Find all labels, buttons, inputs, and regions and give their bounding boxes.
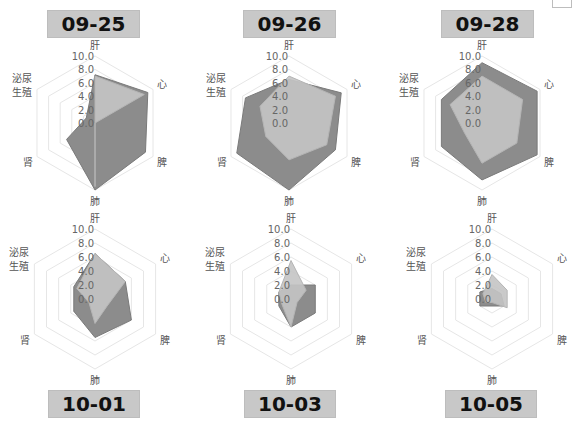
axis-label-urogenital-line2: 生殖 xyxy=(12,86,32,98)
axis-label: 脾 xyxy=(544,156,554,168)
tick-label: 2.0 xyxy=(78,105,94,116)
axis-label-urogenital: 泌尿 xyxy=(406,246,426,258)
axis-label: 肾 xyxy=(23,157,33,168)
axis-label: 脾 xyxy=(356,334,366,346)
radar-chart-10-03: 0.02.04.06.08.010.0肝心脾肺肾泌尿生殖 xyxy=(205,213,367,386)
axis-label: 心 xyxy=(557,253,567,264)
tick-label: 6.0 xyxy=(78,78,94,89)
radar-chart-09-26: 0.02.04.06.08.010.0肝心脾肺肾泌尿生殖 xyxy=(206,40,362,206)
tick-label: 8.0 xyxy=(78,64,94,75)
axis-label: 肝 xyxy=(90,40,100,51)
axis-label: 肝 xyxy=(286,213,296,224)
axis-label: 心 xyxy=(160,253,170,264)
tick-label: 0.0 xyxy=(465,118,481,129)
tick-label: 6.0 xyxy=(274,252,290,263)
tick-label: 6.0 xyxy=(465,78,481,89)
tick-label: 0.0 xyxy=(475,294,491,305)
axis-label: 肝 xyxy=(284,40,294,51)
axis-label: 心 xyxy=(544,79,554,90)
axis-label: 肺 xyxy=(90,196,100,207)
axis-label: 心 xyxy=(356,253,366,264)
tick-label: 10.0 xyxy=(459,51,481,62)
tick-label: 10.0 xyxy=(268,224,290,235)
tick-label: 8.0 xyxy=(274,238,290,249)
axis-label-urogenital: 泌尿 xyxy=(399,72,419,84)
tick-label: 4.0 xyxy=(78,266,94,277)
tick-label: 2.0 xyxy=(465,105,481,116)
axis-label-urogenital: 泌尿 xyxy=(206,72,226,84)
tick-label: 2.0 xyxy=(272,105,288,116)
tick-label: 2.0 xyxy=(475,280,491,291)
axis-label-urogenital-line2: 生殖 xyxy=(205,260,225,272)
axis-label: 肺 xyxy=(286,375,296,386)
chart-title-10-05: 10-05 xyxy=(445,390,537,418)
axis-label: 脾 xyxy=(160,334,170,346)
axis-label: 脾 xyxy=(557,334,567,346)
axis-label: 心 xyxy=(157,79,167,90)
axis-label-urogenital: 泌尿 xyxy=(205,246,225,258)
tick-label: 6.0 xyxy=(78,252,94,263)
tick-label: 10.0 xyxy=(72,224,94,235)
axis-label: 肾 xyxy=(417,335,427,346)
axis-label-urogenital: 泌尿 xyxy=(9,246,29,258)
axis-label-urogenital: 泌尿 xyxy=(12,72,32,84)
axis-label-urogenital-line2: 生殖 xyxy=(399,86,419,98)
tick-label: 4.0 xyxy=(475,266,491,277)
tick-label: 6.0 xyxy=(272,78,288,89)
tick-label: 0.0 xyxy=(78,118,94,129)
axis-label: 肺 xyxy=(487,375,497,386)
radar-charts-canvas: 0.02.04.06.08.010.0肝心脾肺肾泌尿生殖0.02.04.06.0… xyxy=(0,0,575,430)
tick-label: 10.0 xyxy=(72,51,94,62)
axis-label-urogenital-line2: 生殖 xyxy=(406,260,426,272)
radar-chart-10-05: 0.02.04.06.08.010.0肝心脾肺肾泌尿生殖 xyxy=(406,213,568,386)
tick-label: 10.0 xyxy=(469,224,491,235)
tick-label: 4.0 xyxy=(78,91,94,102)
tick-label: 4.0 xyxy=(272,91,288,102)
tick-label: 2.0 xyxy=(274,280,290,291)
chart-title-09-28: 09-28 xyxy=(441,10,534,38)
chart-title-09-26: 09-26 xyxy=(243,10,336,38)
axis-label-urogenital-line2: 生殖 xyxy=(206,86,226,98)
axis-label: 肾 xyxy=(410,157,420,168)
axis-label: 肾 xyxy=(216,335,226,346)
axis-label: 心 xyxy=(351,79,361,90)
axis-label: 脾 xyxy=(351,156,361,168)
axis-label: 肾 xyxy=(20,335,30,346)
chart-title-09-25: 09-25 xyxy=(47,10,140,38)
axis-label: 肝 xyxy=(90,213,100,224)
tick-label: 0.0 xyxy=(78,294,94,305)
axis-label: 脾 xyxy=(157,156,167,168)
tick-label: 0.0 xyxy=(272,118,288,129)
radar-chart-10-01: 0.02.04.06.08.010.0肝心脾肺肾泌尿生殖 xyxy=(9,213,171,386)
axis-label: 肝 xyxy=(487,213,497,224)
tick-label: 4.0 xyxy=(274,266,290,277)
tick-label: 10.0 xyxy=(266,51,288,62)
axis-label: 肾 xyxy=(217,157,227,168)
tick-label: 8.0 xyxy=(78,238,94,249)
tick-label: 6.0 xyxy=(475,252,491,263)
axis-label-urogenital-line2: 生殖 xyxy=(9,260,29,272)
tick-label: 8.0 xyxy=(465,64,481,75)
tick-label: 0.0 xyxy=(274,294,290,305)
chart-title-10-01: 10-01 xyxy=(48,390,140,418)
chart-title-10-03: 10-03 xyxy=(244,390,336,418)
axis-label: 肺 xyxy=(477,196,487,207)
radar-chart-09-25: 0.02.04.06.08.010.0肝心脾肺肾泌尿生殖 xyxy=(12,40,168,206)
tick-label: 8.0 xyxy=(475,238,491,249)
tick-label: 4.0 xyxy=(465,91,481,102)
axis-label: 肝 xyxy=(477,40,487,51)
axis-label: 肺 xyxy=(284,196,294,207)
radar-chart-09-28: 0.02.04.06.08.010.0肝心脾肺肾泌尿生殖 xyxy=(399,40,555,206)
tick-label: 2.0 xyxy=(78,280,94,291)
tick-label: 8.0 xyxy=(272,64,288,75)
axis-label: 肺 xyxy=(90,375,100,386)
